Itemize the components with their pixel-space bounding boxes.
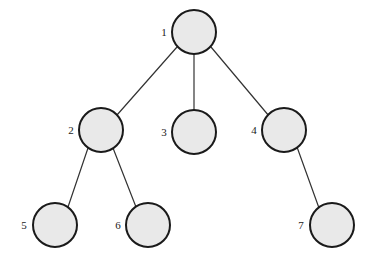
node-label-3: 3 bbox=[161, 126, 167, 138]
tree-node-4[interactable]: 4 bbox=[251, 108, 306, 152]
node-circle-7[interactable] bbox=[310, 203, 354, 247]
tree-node-7[interactable]: 7 bbox=[298, 203, 354, 247]
node-label-4: 4 bbox=[251, 124, 257, 136]
tree-edge-4-7 bbox=[297, 147, 319, 208]
tree-node-1[interactable]: 1 bbox=[161, 10, 216, 54]
tree-node-6[interactable]: 6 bbox=[115, 203, 170, 247]
node-label-2: 2 bbox=[68, 124, 74, 136]
node-circle-6[interactable] bbox=[126, 203, 170, 247]
tree-node-2[interactable]: 2 bbox=[68, 108, 123, 152]
node-label-5: 5 bbox=[21, 219, 27, 231]
tree-edge-1-2 bbox=[117, 47, 177, 115]
node-label-1: 1 bbox=[161, 26, 167, 38]
nodes-group: 1234567 bbox=[21, 10, 354, 247]
node-circle-2[interactable] bbox=[79, 108, 123, 152]
tree-diagram-canvas: 1234567 bbox=[0, 0, 373, 263]
tree-edge-2-6 bbox=[113, 148, 136, 207]
node-circle-1[interactable] bbox=[172, 10, 216, 54]
tree-node-5[interactable]: 5 bbox=[21, 203, 77, 247]
node-circle-5[interactable] bbox=[33, 203, 77, 247]
node-circle-4[interactable] bbox=[262, 108, 306, 152]
tree-edge-2-5 bbox=[68, 148, 88, 207]
node-circle-3[interactable] bbox=[172, 110, 216, 154]
node-label-7: 7 bbox=[298, 219, 304, 231]
tree-node-3[interactable]: 3 bbox=[161, 110, 216, 154]
tree-graph: 1234567 bbox=[0, 0, 373, 263]
node-label-6: 6 bbox=[115, 219, 121, 231]
tree-edge-1-4 bbox=[211, 47, 269, 116]
